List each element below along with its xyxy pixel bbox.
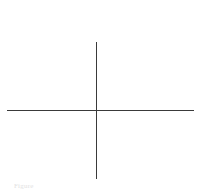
figure-caption: Figure <box>14 182 200 191</box>
axes-figure: Figure <box>0 0 202 191</box>
horizontal-axis-line <box>7 110 194 111</box>
vertical-axis-line <box>96 42 97 179</box>
